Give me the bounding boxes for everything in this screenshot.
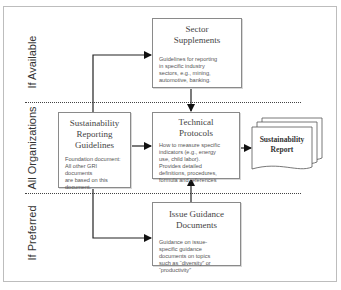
body-line: How to measure specific <box>159 142 234 149</box>
title-line: Reporting <box>59 129 130 140</box>
title-line: Sustainability <box>59 118 130 129</box>
body-line: Guidelines for reporting <box>159 56 236 63</box>
body-line: such as “diversity” or <box>159 260 235 267</box>
node-sector-supplements: Sector Supplements Guidelines for report… <box>152 18 242 88</box>
body-line: in specific industry <box>159 63 236 70</box>
body-line: “productivity” <box>159 267 235 274</box>
body-line: formula and references <box>159 177 234 184</box>
node-title: Issue Guidance Documents <box>153 209 240 231</box>
body-line: sectors, e.g., mining, <box>159 70 236 77</box>
title-line: Guidelines <box>59 140 130 151</box>
node-description: Foundation document: All other GRI docum… <box>65 156 125 191</box>
node-technical-protocols: Technical Protocols How to measure speci… <box>152 112 240 179</box>
body-line: use, child labor). <box>159 156 234 163</box>
body-line: All other GRI documents <box>65 163 125 177</box>
title-line: Documents <box>153 220 240 231</box>
title-line: Sector <box>153 24 241 35</box>
node-title: Technical Protocols <box>153 117 239 139</box>
title-line: Sustainability <box>252 135 312 145</box>
title-line: Supplements <box>153 35 241 46</box>
body-line: automotive, banking. <box>159 77 236 84</box>
node-reporting-guidelines: Sustainability Reporting Guidelines Foun… <box>58 112 131 188</box>
title-line: Technical <box>153 117 239 128</box>
body-line: Foundation document: <box>65 156 125 163</box>
node-description: Guidelines for reporting in specific ind… <box>159 56 236 84</box>
body-line: definitions, procedures, <box>159 170 234 177</box>
title-line: Report <box>252 145 312 155</box>
title-line: Issue Guidance <box>153 209 240 220</box>
body-line: are based on this <box>65 177 125 184</box>
body-line: indicators (e.g., energy <box>159 149 234 156</box>
title-line: Protocols <box>153 128 239 139</box>
body-line: specific guidance <box>159 246 235 253</box>
node-title: Sector Supplements <box>153 24 241 46</box>
body-line: document. <box>65 184 125 191</box>
node-sustainability-report: Sustainability Report <box>252 135 312 155</box>
body-line: documents on topics <box>159 253 235 260</box>
body-line: Provides detailed <box>159 163 234 170</box>
node-title: Sustainability Reporting Guidelines <box>59 118 130 151</box>
body-line: Guidance on issue- <box>159 239 235 246</box>
node-issue-guidance: Issue Guidance Documents Guidance on iss… <box>152 202 241 266</box>
node-description: How to measure specific indicators (e.g.… <box>159 142 234 184</box>
node-description: Guidance on issue- specific guidance doc… <box>159 239 235 274</box>
